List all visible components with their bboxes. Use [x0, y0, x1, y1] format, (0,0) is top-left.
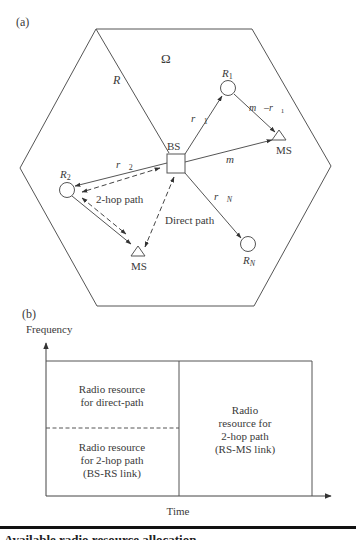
- bs-label: BS: [167, 140, 180, 152]
- svg-text:(BS-RS link): (BS-RS link): [83, 467, 141, 480]
- panel-a-label: (a): [16, 15, 29, 29]
- mobile-station-icon-2: [131, 246, 145, 256]
- y-axis-label: Frequency: [26, 323, 73, 335]
- relay-r2-icon: [60, 183, 75, 198]
- panel-b-label: (b): [22, 307, 36, 321]
- svg-text:resource for: resource for: [219, 417, 272, 429]
- svg-text:Radio: Radio: [232, 404, 259, 416]
- vector-rn-label: r⃗N: [214, 190, 233, 204]
- svg-text:Radio resource: Radio resource: [79, 441, 145, 453]
- relay-r2-label: R2: [59, 168, 71, 182]
- base-station-icon: [167, 154, 185, 173]
- relay-rn-icon: [241, 237, 256, 252]
- x-axis-label: Time: [167, 505, 190, 517]
- vector-r1-label: r⃗1: [191, 112, 208, 126]
- block-direct-path: Radio resource for direct-path: [79, 383, 145, 408]
- svg-text:(RS-MS link): (RS-MS link): [215, 443, 276, 456]
- caption-rule: [0, 526, 356, 529]
- two-hop-dashed-bs-r2: [82, 168, 160, 192]
- relay-r1-icon: [221, 81, 236, 96]
- caption-fragment: Available radio resource allocation: [4, 532, 356, 540]
- vector-rn-arrow: [185, 173, 241, 238]
- svg-text:for 2-hop path: for 2-hop path: [81, 454, 144, 466]
- relay-r1-label: R1: [221, 67, 233, 81]
- direct-path-label: Direct path: [165, 214, 215, 226]
- vector-r2-label: r⃗2: [116, 158, 133, 172]
- region-omega-label: Ω: [161, 51, 171, 66]
- ms-label-1: MS: [276, 144, 292, 156]
- block-bs-rs-link: Radio resource for 2-hop path (BS-RS lin…: [79, 441, 145, 480]
- direct-path-dashed: [145, 177, 174, 247]
- block-rs-ms-link: Radio resource for 2-hop path (RS-MS lin…: [215, 404, 276, 456]
- ms-label-2: MS: [131, 260, 147, 272]
- svg-text:for direct-path: for direct-path: [80, 396, 144, 408]
- vector-m-minus-r1-arrow: [234, 94, 275, 132]
- radius-line: [96, 29, 169, 153]
- radius-label: R: [112, 73, 121, 87]
- svg-text:2-hop path: 2-hop path: [221, 430, 269, 442]
- svg-text:Radio resource: Radio resource: [79, 383, 145, 395]
- vector-m-label: m⃗: [226, 153, 243, 165]
- relay-rn-label: RN: [242, 254, 256, 268]
- diagram-canvas: (a) R Ω BS R1 MS r⃗1 m⃗–r⃗1 m⃗ R2 r⃗2 2-…: [0, 0, 356, 540]
- two-hop-path-label: 2-hop path: [96, 193, 144, 205]
